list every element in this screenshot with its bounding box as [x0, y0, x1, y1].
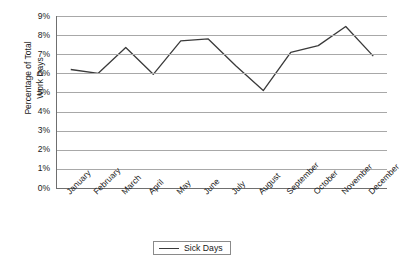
gridline: [57, 73, 387, 74]
series-sick-days: [57, 16, 387, 188]
gridline: [57, 35, 387, 36]
gridline: [57, 131, 387, 132]
legend-item-sick-days: Sick Days: [184, 244, 223, 253]
legend-line-swatch: [159, 248, 179, 249]
gridline: [57, 150, 387, 151]
y-axis-tick-label: 3%: [38, 126, 50, 135]
y-axis-tick-label: 6%: [38, 69, 50, 78]
gridline: [57, 92, 387, 93]
plot-area: [56, 16, 387, 189]
chart-legend: Sick Days: [153, 241, 231, 255]
y-axis-tick-label: 9%: [38, 12, 50, 21]
y-axis-tick-label: 7%: [38, 50, 50, 59]
y-axis-tick-label: 0%: [38, 184, 50, 193]
y-axis-tick-label: 8%: [38, 31, 50, 40]
x-axis-tick-labels: JanuaryFebruaryMarchAprilMayJuneJulyAugu…: [56, 190, 396, 248]
gridline: [57, 169, 387, 170]
y-axis-tick-label: 5%: [38, 88, 50, 97]
gridline: [57, 112, 387, 113]
y-axis-tick-label: 1%: [38, 164, 50, 173]
y-axis-tick-label: 4%: [38, 107, 50, 116]
gridline: [57, 54, 387, 55]
y-axis-tick-label: 2%: [38, 145, 50, 154]
y-axis-tick-labels: 9%8%7%6%5%4%3%2%1%0%: [26, 9, 52, 199]
gridline: [57, 16, 387, 17]
